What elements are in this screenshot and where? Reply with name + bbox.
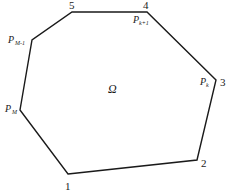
label-p-k1-sub: k+1 (139, 20, 149, 26)
label-pm-main: P (4, 103, 11, 114)
vertex-label-2: 2 (201, 157, 207, 169)
polygon-diagram: Ω 1 2 3 4 5 P k P k+1 P M-1 P M (0, 0, 229, 196)
region-label-omega: Ω (108, 82, 117, 96)
label-pm1-sub: M-1 (14, 40, 25, 46)
polygon-boundary (20, 12, 216, 174)
vertex-label-5: 5 (69, 0, 75, 11)
vertex-label-3: 3 (220, 76, 226, 88)
label-p-k: P k (199, 76, 209, 88)
label-p-k-sub: k (206, 82, 209, 88)
label-p-m: P M (4, 103, 18, 115)
label-p-m-minus-1: P M-1 (7, 34, 25, 46)
vertex-label-4: 4 (143, 0, 149, 11)
label-pm1-main: P (7, 34, 14, 45)
label-pm-sub: M (11, 109, 18, 115)
label-p-k-plus-1: P k+1 (132, 14, 149, 26)
vertex-label-1: 1 (65, 180, 71, 192)
